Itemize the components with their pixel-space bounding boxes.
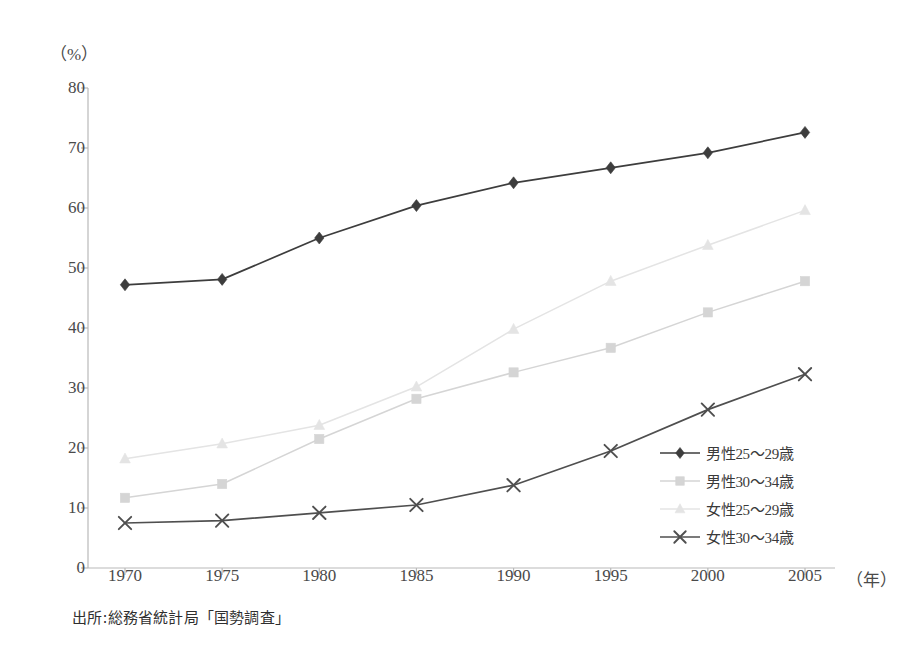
y-axis-tick-label: 10 <box>68 498 85 518</box>
diamond-marker-icon <box>217 273 226 285</box>
y-axis-tick-label: 60 <box>68 198 85 218</box>
data-point-marker <box>799 368 811 380</box>
y-axis-tick-label: 20 <box>68 438 85 458</box>
data-point-marker <box>703 147 712 159</box>
square-marker-icon <box>120 493 129 502</box>
data-point-marker <box>800 277 809 286</box>
source-note: 出所:総務省統計局「国勢調査」 <box>72 606 290 627</box>
data-point-marker <box>120 493 129 502</box>
data-point-marker <box>315 232 324 244</box>
triangle-marker-icon <box>800 205 811 215</box>
data-point-marker <box>412 200 421 212</box>
legend-label: 男性25～29歳 <box>706 442 794 463</box>
x-axis-tick-label: 1980 <box>302 566 336 586</box>
data-point-marker <box>702 403 714 415</box>
y-axis-tick-label: 70 <box>68 138 85 158</box>
legend-marker-icon <box>658 528 702 546</box>
data-point-marker <box>800 126 809 138</box>
legend-marker-icon <box>658 444 702 462</box>
data-point-marker <box>217 273 226 285</box>
data-point-marker <box>509 177 518 189</box>
x-axis-tick-label: 1970 <box>108 566 142 586</box>
diamond-marker-icon <box>703 147 712 159</box>
data-point-marker <box>411 381 422 391</box>
y-axis-tick-label: 50 <box>68 258 85 278</box>
square-marker-icon <box>676 477 684 485</box>
x-axis-tick-label: 1990 <box>497 566 531 586</box>
square-marker-icon <box>800 277 809 286</box>
data-point-marker <box>605 445 617 457</box>
legend-item[interactable]: 女性25～29歳 <box>658 494 794 522</box>
data-point-marker <box>606 162 615 174</box>
square-marker-icon <box>509 368 518 377</box>
legend-marker-icon <box>658 472 702 490</box>
legend-marker <box>658 444 702 460</box>
legend-marker <box>658 528 702 544</box>
x-axis-tick-label: 1995 <box>594 566 628 586</box>
square-marker-icon <box>218 479 227 488</box>
data-point-marker <box>120 279 129 291</box>
legend-marker-icon <box>658 500 702 518</box>
data-point-marker <box>218 479 227 488</box>
data-point-marker <box>800 205 811 215</box>
diamond-marker-icon <box>315 232 324 244</box>
legend-item[interactable]: 男性30～34歳 <box>658 466 794 494</box>
legend-marker <box>658 500 702 516</box>
x-axis-tick-label: 2005 <box>788 566 822 586</box>
square-marker-icon <box>606 343 615 352</box>
data-point-marker <box>676 477 684 485</box>
data-point-marker <box>315 434 324 443</box>
legend-label: 女性30～34歳 <box>706 526 794 547</box>
diamond-marker-icon <box>509 177 518 189</box>
y-axis-tick-label: 40 <box>68 318 85 338</box>
chart-legend: 男性25～29歳男性30～34歳女性25～29歳女性30～34歳 <box>658 438 794 550</box>
series-line <box>125 210 805 458</box>
diamond-marker-icon <box>120 279 129 291</box>
triangle-marker-icon <box>508 323 519 333</box>
y-axis-tick-labels: 01020304050607080 <box>40 0 85 668</box>
y-axis-tick-label: 30 <box>68 378 85 398</box>
diamond-marker-icon <box>800 126 809 138</box>
x-axis-tick-label: 1975 <box>205 566 239 586</box>
diamond-marker-icon <box>676 447 685 458</box>
data-point-marker <box>703 308 712 317</box>
data-point-marker <box>606 343 615 352</box>
legend-label: 女性25～29歳 <box>706 498 794 519</box>
square-marker-icon <box>703 308 712 317</box>
data-point-marker <box>412 394 421 403</box>
legend-marker <box>658 472 702 488</box>
square-marker-icon <box>315 434 324 443</box>
data-point-marker <box>509 368 518 377</box>
triangle-marker-icon <box>411 381 422 391</box>
x-axis-unit-label: （年） <box>846 566 897 591</box>
series-line <box>125 132 805 284</box>
square-marker-icon <box>412 394 421 403</box>
series-3 <box>120 205 811 463</box>
data-point-marker <box>676 447 685 458</box>
x-axis-tick-label: 2000 <box>691 566 725 586</box>
legend-label: 男性30～34歳 <box>706 470 794 491</box>
y-axis-tick-label: 80 <box>68 78 85 98</box>
legend-item[interactable]: 女性30～34歳 <box>658 522 794 550</box>
data-point-marker <box>507 479 519 491</box>
diamond-marker-icon <box>412 200 421 212</box>
x-axis-tick-label: 1985 <box>399 566 433 586</box>
y-axis-tick-label: 0 <box>77 558 86 578</box>
chart-figure: （%） 01020304050607080 197019751980198519… <box>0 0 911 668</box>
series-1 <box>120 126 809 290</box>
diamond-marker-icon <box>606 162 615 174</box>
data-point-marker <box>508 323 519 333</box>
legend-item[interactable]: 男性25～29歳 <box>658 438 794 466</box>
